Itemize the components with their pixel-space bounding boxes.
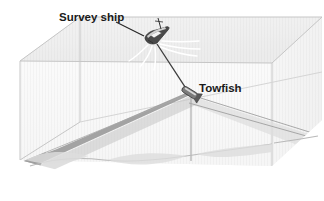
wake-streak-6 xyxy=(162,41,199,42)
diagram-canvas: Survey ship Towfish xyxy=(0,0,324,201)
towfish-label: Towfish xyxy=(199,82,242,94)
sea-surface-texture xyxy=(20,17,322,63)
sonar-survey-diagram: Survey ship Towfish xyxy=(0,0,324,201)
water-column-block xyxy=(20,17,322,166)
survey-ship-label: Survey ship xyxy=(59,11,124,23)
